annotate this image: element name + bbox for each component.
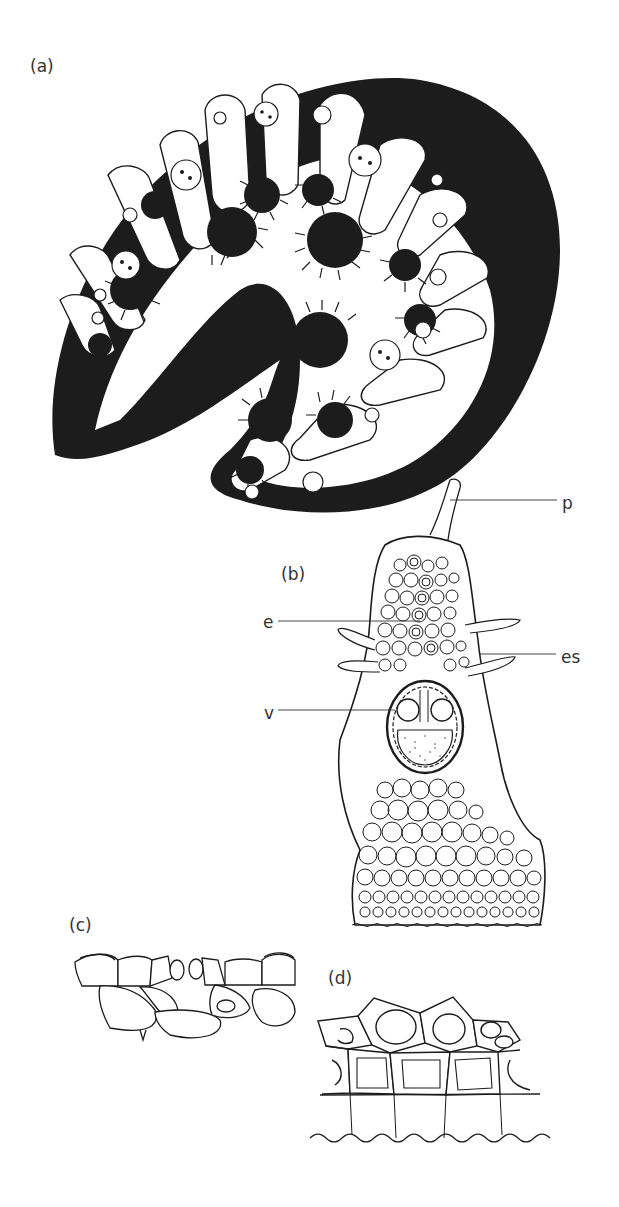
figure-canvas	[0, 0, 619, 1207]
panel-a-leaf-section	[52, 78, 560, 512]
panel-c-epidermis-stoma	[75, 953, 295, 1040]
panel-b-rib-section	[278, 479, 557, 926]
panel-d-outer-epidermis	[310, 997, 550, 1142]
